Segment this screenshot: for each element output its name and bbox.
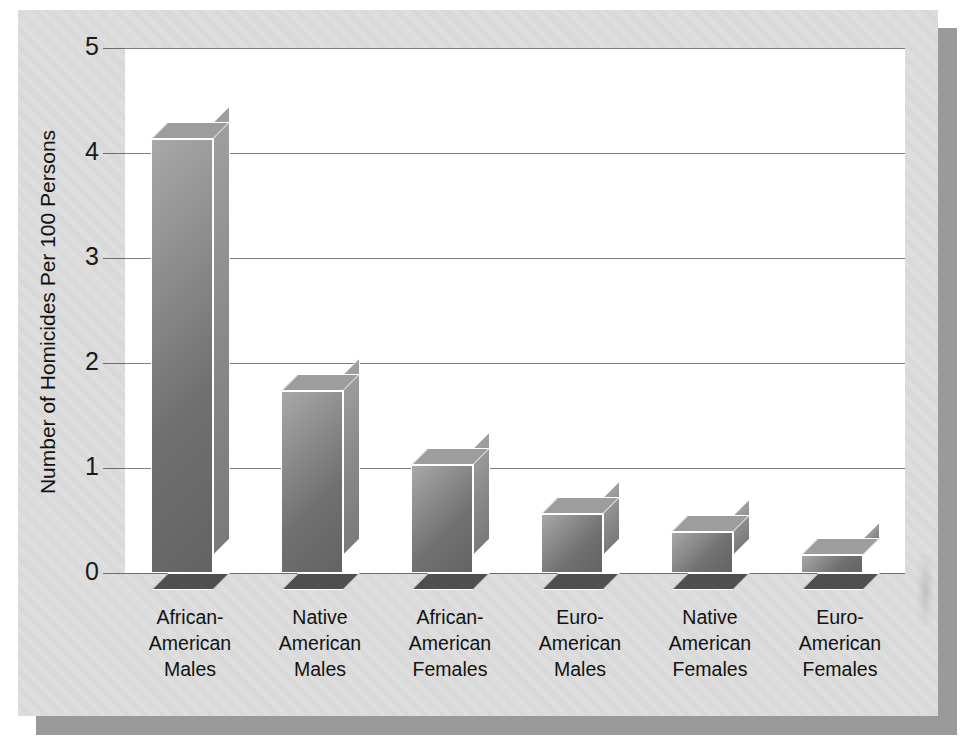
y-axis-tick-mark — [103, 153, 125, 154]
gridline — [125, 363, 905, 364]
x-axis-category-label-line: Females — [775, 656, 905, 682]
y-axis-tick-label: 1 — [65, 454, 99, 479]
bar — [801, 555, 863, 573]
x-axis-category-label-line: American — [385, 630, 515, 656]
x-axis-category-label: African-AmericanMales — [125, 604, 255, 682]
x-axis-category-label-line: Native — [645, 604, 775, 630]
gridline — [125, 48, 905, 49]
plot-area — [125, 48, 905, 573]
x-axis-category-label-line: Euro- — [775, 604, 905, 630]
y-axis-tick-label: 0 — [65, 559, 99, 584]
y-axis-tick-label: 2 — [65, 349, 99, 374]
x-axis-category-label-line: American — [645, 630, 775, 656]
x-axis-category-label-line: American — [775, 630, 905, 656]
bar — [671, 532, 733, 573]
y-axis-tick-label: 4 — [65, 139, 99, 164]
x-axis-category-label-line: Males — [125, 656, 255, 682]
gridline — [125, 573, 905, 574]
x-axis-category-label-line: Males — [255, 656, 385, 682]
bar — [281, 391, 343, 573]
x-axis-category-label-line: Females — [385, 656, 515, 682]
x-axis-category-label: NativeAmericanMales — [255, 604, 385, 682]
card-shadow-right — [938, 28, 957, 735]
bar-front-face — [671, 532, 733, 573]
card-shadow-bottom — [36, 716, 957, 735]
chart-figure: Number of Homicides Per 100 Persons 5432… — [0, 0, 965, 749]
x-axis-category-label-line: Euro- — [515, 604, 645, 630]
y-axis-tick-labels: 543210 — [55, 0, 99, 749]
bar — [411, 465, 473, 573]
x-axis-category-label-line: Native — [255, 604, 385, 630]
x-axis-category-label: NativeAmericanFemales — [645, 604, 775, 682]
gridline — [125, 468, 905, 469]
x-axis-category-label-line: Males — [515, 656, 645, 682]
x-axis-category-label: African-AmericanFemales — [385, 604, 515, 682]
bar — [541, 514, 603, 573]
bar-top-face — [801, 538, 880, 555]
x-axis-category-label-line: Females — [645, 656, 775, 682]
y-axis-tick-mark — [103, 468, 125, 469]
y-axis-tick-label: 5 — [65, 34, 99, 59]
bar-front-face — [281, 391, 343, 573]
bar — [151, 139, 213, 573]
bar-side-face — [213, 105, 230, 556]
y-axis-tick-mark — [103, 258, 125, 259]
x-axis-category-label-line: African- — [125, 604, 255, 630]
bar-front-face — [801, 555, 863, 573]
x-axis-category-label-line: American — [515, 630, 645, 656]
bar-front-face — [151, 139, 213, 573]
bar-side-face — [603, 480, 620, 556]
y-axis-tick-label: 3 — [65, 244, 99, 269]
x-axis-category-label-line: American — [255, 630, 385, 656]
x-axis-category-label-line: American — [125, 630, 255, 656]
gridline — [125, 153, 905, 154]
x-axis-category-labels: African-AmericanMalesNativeAmericanMales… — [125, 604, 905, 704]
x-axis-category-label-line: African- — [385, 604, 515, 630]
x-axis-category-label: Euro-AmericanMales — [515, 604, 645, 682]
bar-front-face — [541, 514, 603, 573]
x-axis-category-label: Euro-AmericanFemales — [775, 604, 905, 682]
y-axis-tick-mark — [103, 48, 125, 49]
bar-front-face — [411, 465, 473, 573]
y-axis-tick-mark — [103, 363, 125, 364]
y-axis-tick-mark — [103, 573, 125, 574]
gridline — [125, 258, 905, 259]
